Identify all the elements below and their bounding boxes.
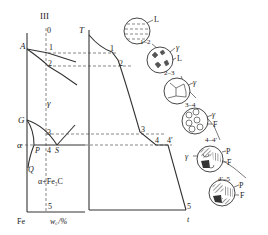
svg-text:2–3: 2–3 <box>164 69 175 77</box>
x-axis-label: w꜀/% <box>50 217 68 226</box>
microstructures: L 1–2 γ L 2–3 γ 3–4 γ F <box>124 15 246 206</box>
point-a: A <box>19 41 26 51</box>
svg-text:2: 2 <box>48 59 52 68</box>
svg-text:γ: γ <box>212 110 216 119</box>
svg-text:4: 4 <box>155 136 159 145</box>
temp-axis-label: T <box>79 25 85 35</box>
point-s: S <box>55 146 59 155</box>
svg-text:γ: γ <box>176 43 180 52</box>
svg-text:3: 3 <box>141 125 145 134</box>
alpha-region: α <box>17 140 22 150</box>
svg-text:3: 3 <box>47 128 51 137</box>
svg-text:2: 2 <box>119 59 123 68</box>
micro-gamma-liquid: γ L 2–3 <box>147 43 182 77</box>
svg-text:P: P <box>239 181 244 190</box>
svg-text:4: 4 <box>47 146 51 155</box>
svg-text:4′: 4′ <box>167 136 173 145</box>
svg-text:1–2: 1–2 <box>140 38 151 46</box>
phase-diagram: III 0 1 2 3 4 5 A G P S Q γ α α+Fe₃C Fe … <box>17 11 85 226</box>
cooling-curve: T t 1 2 3 4 4′ 5 <box>79 25 191 224</box>
fe-c-cooling-diagram: III 0 1 2 3 4 5 A G P S Q γ α α+Fe₃C Fe … <box>0 0 268 235</box>
gs-line <box>27 120 57 145</box>
micro-pearlite-ferrite: P F <box>209 180 245 206</box>
svg-text:5: 5 <box>48 202 52 211</box>
se-line <box>57 125 75 145</box>
alpha-fe3c-region: α+Fe₃C <box>38 177 63 186</box>
svg-text:5: 5 <box>187 202 191 211</box>
svg-text:F: F <box>227 158 232 167</box>
micro-gamma-ferrite: γ F 4–4′ <box>182 108 218 144</box>
svg-text:1: 1 <box>49 43 53 52</box>
micro-gamma: γ 3–4 <box>164 78 197 109</box>
svg-text:P: P <box>226 147 231 156</box>
svg-text:γ: γ <box>185 152 189 161</box>
svg-text:F: F <box>240 191 245 200</box>
svg-text:L: L <box>177 54 182 63</box>
point-g: G <box>18 115 25 125</box>
time-axis-label: t <box>187 215 190 224</box>
fe-label: Fe <box>17 217 25 226</box>
micro-liquid: L 1–2 <box>124 15 159 46</box>
alloy-label: III <box>40 11 49 21</box>
svg-text:F: F <box>213 120 218 129</box>
point-p: P <box>34 146 40 155</box>
gp-line <box>27 120 34 145</box>
gamma-region: γ <box>47 98 51 108</box>
point-q: Q <box>28 165 34 174</box>
svg-text:γ: γ <box>193 78 197 87</box>
svg-text:0: 0 <box>47 26 51 35</box>
svg-text:L: L <box>154 15 159 24</box>
svg-text:1: 1 <box>110 44 114 53</box>
svg-text:4–4′: 4–4′ <box>205 136 218 144</box>
micro-gamma-pearlite-ferrite: γ P F 4′–5 <box>185 146 232 183</box>
